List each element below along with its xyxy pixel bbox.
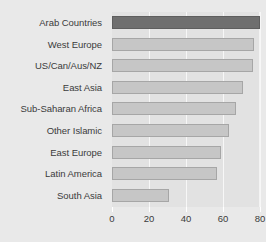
category-label: US/Can/Aus/NZ (35, 55, 102, 77)
tick-mark (223, 207, 224, 212)
bar (112, 167, 217, 180)
gridline (260, 12, 261, 207)
bar (112, 81, 243, 94)
bar (112, 146, 221, 159)
category-label: East Europe (50, 142, 102, 164)
bar-row (112, 34, 259, 56)
bar-row (112, 77, 259, 99)
category-label: Other Islamic (47, 120, 102, 142)
plot-area (112, 12, 260, 207)
category-label: West Europe (48, 34, 102, 56)
tick-mark (186, 207, 187, 212)
bar (112, 38, 254, 51)
bar-row (112, 12, 259, 34)
tick-mark (112, 207, 113, 212)
category-axis: Arab Countries West Europe US/Can/Aus/NZ… (0, 12, 106, 207)
bar-chart: Arab Countries West Europe US/Can/Aus/NZ… (0, 0, 266, 242)
tick-label: 60 (218, 213, 229, 224)
category-label: East Asia (63, 77, 102, 99)
category-label: Sub-Saharan Africa (21, 98, 102, 120)
category-label: Latin America (45, 163, 102, 185)
bar (112, 189, 169, 202)
bar (112, 102, 236, 115)
bar-row (112, 55, 259, 77)
bar-row (112, 120, 259, 142)
bar (112, 124, 229, 137)
category-label: Arab Countries (39, 12, 102, 34)
tick-label: 20 (144, 213, 155, 224)
bar-row (112, 98, 259, 120)
bar-row (112, 142, 259, 164)
bar (112, 59, 253, 72)
bar-row (112, 185, 259, 207)
tick-label: 80 (255, 213, 266, 224)
bar (112, 16, 260, 29)
tick-label: 0 (109, 213, 114, 224)
tick-mark (149, 207, 150, 212)
bar-row (112, 163, 259, 185)
tick-mark (260, 207, 261, 212)
category-label: South Asia (57, 185, 102, 207)
tick-label: 40 (181, 213, 192, 224)
